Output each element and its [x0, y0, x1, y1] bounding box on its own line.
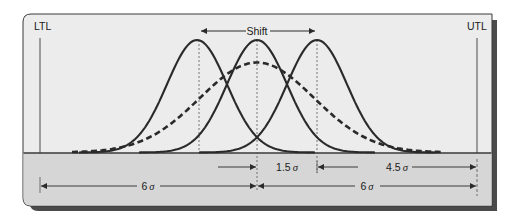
- dim-1-5-sigma: 1.5σ: [276, 161, 299, 173]
- utl-label: UTL: [467, 20, 487, 32]
- dim-6-sigma-right: 6σ: [360, 180, 374, 192]
- ltl-label: LTL: [34, 20, 51, 32]
- dim-6-sigma-left: 6σ: [141, 180, 155, 192]
- six-sigma-shift-diagram: LTL UTL Shift 1.5σ 4.5σ 6σ 6σ: [0, 0, 517, 218]
- dimension-band: [24, 153, 492, 206]
- dim-4-5-sigma: 4.5σ: [386, 161, 409, 173]
- shift-label: Shift: [246, 25, 267, 37]
